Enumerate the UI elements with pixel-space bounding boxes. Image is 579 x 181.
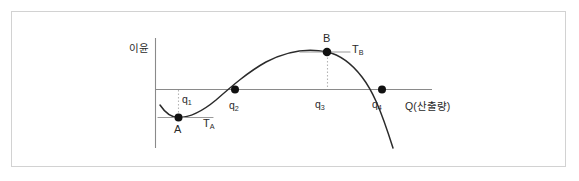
- tick-label-q2-sub: 2: [235, 104, 239, 113]
- point-label-b: B: [323, 33, 330, 44]
- point-marker-q2: [231, 86, 239, 94]
- tangent-label-b-base: T: [352, 43, 359, 55]
- tangent-label-a: TA: [203, 118, 215, 129]
- x-axis-label: Q(산출량): [405, 101, 450, 112]
- tick-label-q1-sub: 1: [188, 98, 192, 107]
- tick-label-q2-base: q: [229, 99, 235, 111]
- tick-label-q1: q1: [182, 94, 192, 105]
- tick-label-q3-sub: 3: [321, 103, 325, 112]
- tangent-label-b: TB: [352, 44, 364, 55]
- point-marker-b: [323, 48, 332, 57]
- tangent-label-a-base: T: [203, 117, 210, 129]
- tick-label-q4-sub: 4: [378, 103, 382, 112]
- tick-label-q4: q4: [372, 99, 382, 110]
- tangent-label-b-sub: B: [359, 48, 364, 57]
- tick-label-q2: q2: [229, 100, 239, 111]
- point-marker-q4: [378, 86, 386, 94]
- profit-curve-chart: [0, 0, 579, 181]
- point-label-a: A: [174, 124, 181, 135]
- point-marker-a: [175, 114, 183, 122]
- tangent-label-a-sub: A: [210, 122, 215, 131]
- profit-curve: [160, 50, 393, 148]
- y-axis-label: 이윤: [129, 43, 149, 54]
- tick-label-q3-base: q: [315, 98, 321, 110]
- figure-root: 이윤 Q(산출량) A B TA TB q1 q2 q3 q4: [0, 0, 579, 181]
- tick-label-q3: q3: [315, 99, 325, 110]
- tick-label-q1-base: q: [182, 93, 188, 105]
- tick-label-q4-base: q: [372, 98, 378, 110]
